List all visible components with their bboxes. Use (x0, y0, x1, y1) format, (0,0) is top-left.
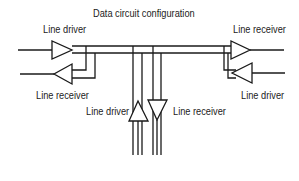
right-line-receiver-symbol (231, 41, 250, 59)
left-line-driver-symbol (52, 41, 72, 59)
bottom-line-driver-symbol (129, 101, 148, 121)
circuit-diagram (0, 0, 299, 181)
right-line-driver-symbol (232, 63, 252, 83)
bottom-line-receiver-symbol (148, 100, 167, 120)
left-receiver-tap-2 (72, 53, 95, 78)
left-line-receiver-symbol (54, 64, 72, 84)
left-receiver-tap-1 (72, 46, 86, 70)
